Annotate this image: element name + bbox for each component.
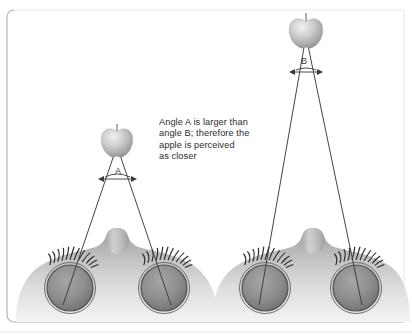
apple-far — [289, 13, 322, 48]
apple-near — [101, 124, 132, 157]
figure-caption: Angle A is larger than angle B; therefor… — [159, 117, 267, 162]
face-near — [16, 228, 218, 322]
nose-bridge-far — [301, 228, 324, 254]
angle-label-b: B — [301, 56, 307, 66]
face-far — [212, 228, 410, 322]
depth-perception-figure — [0, 0, 412, 335]
far-scene — [212, 13, 410, 322]
apple-body-far — [289, 19, 322, 48]
nose-bridge-near — [105, 228, 128, 254]
apple-body-near — [101, 129, 132, 157]
angle-label-a: A — [115, 166, 121, 176]
